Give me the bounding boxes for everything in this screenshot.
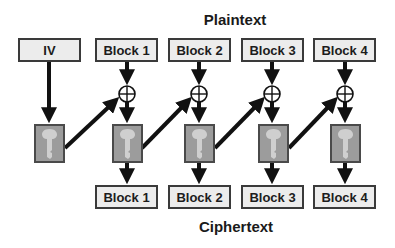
ciphertext-block-3: Block 3: [241, 185, 304, 209]
plaintext-block-1: Block 1: [95, 38, 158, 62]
arrow-key0-to-xor1: [65, 102, 114, 148]
ciphertext-block-4: Block 4: [313, 185, 376, 209]
plaintext-block-4: Block 4: [313, 38, 376, 62]
xor-circle-icon: [119, 86, 135, 102]
key-icon: [114, 126, 141, 161]
xor-circle-icon: [337, 86, 353, 102]
plaintext-block-2: Block 2: [168, 38, 231, 62]
plaintext-heading: Plaintext: [204, 11, 267, 28]
cipher-key-box-iv: [34, 124, 65, 163]
key-icon: [186, 126, 213, 161]
arrow-key3-to-xor4: [289, 102, 333, 148]
xor-circle-icon: [264, 86, 280, 102]
cipher-key-box-2: [184, 124, 215, 163]
cbc-mode-diagram: Plaintext Ciphertext IV Block 1 Block 2 …: [0, 0, 395, 248]
plaintext-block-3: Block 3: [241, 38, 304, 62]
cipher-key-box-3: [258, 124, 289, 163]
key-icon: [260, 126, 287, 161]
arrow-key2-to-xor3: [215, 102, 260, 148]
ciphertext-block-1: Block 1: [95, 185, 158, 209]
iv-box: IV: [18, 38, 81, 62]
cipher-key-box-1: [112, 124, 143, 163]
ciphertext-heading: Ciphertext: [199, 218, 273, 235]
arrow-key1-to-xor2: [142, 102, 187, 148]
key-icon: [332, 126, 359, 161]
cipher-key-box-4: [330, 124, 361, 163]
ciphertext-block-2: Block 2: [168, 185, 231, 209]
key-icon: [36, 126, 63, 161]
xor-circle-icon: [191, 86, 207, 102]
